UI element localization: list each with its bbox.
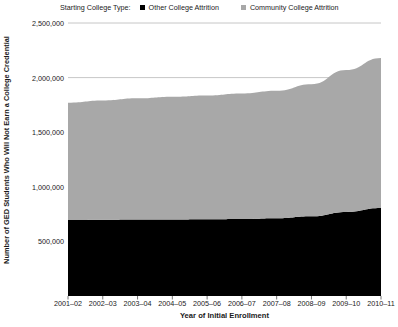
y-axis-tick-label: 1,000,000 [4,182,64,191]
x-axis-tick-label: 2006–07 [228,299,256,308]
area-series [68,58,381,220]
chart-container: Starting College Type: Other College Att… [0,0,398,327]
x-axis-tick-label: 2009–10 [332,299,360,308]
x-axis-tick-label: 2004–05 [158,299,186,308]
y-axis-tick-label: 2,500,000 [4,19,64,28]
y-axis-tick-labels: 500,0001,000,0001,500,0002,000,0002,500,… [0,0,64,327]
x-axis-tick-label: 2002–03 [89,299,117,308]
y-axis-tick-label: 1,500,000 [4,128,64,137]
x-axis-title: Year of Initial Enrollment [68,311,381,320]
y-axis-tick-label: 2,000,000 [4,73,64,82]
x-axis-tick-label: 2010–11 [367,299,394,308]
x-axis-tick-label: 2008–09 [297,299,325,308]
y-axis-tick-label: 500,000 [4,237,64,246]
x-axis-tick-label: 2003–04 [124,299,152,308]
x-axis-tick-label: 2001–02 [54,299,82,308]
x-axis-tick-label: 2005–06 [193,299,221,308]
area-series [68,208,381,296]
x-axis-tick-label: 2007–08 [263,299,291,308]
